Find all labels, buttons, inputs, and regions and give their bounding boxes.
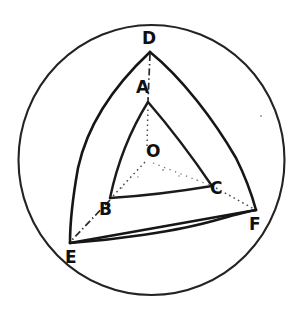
- stray-mark: [196, 179, 198, 181]
- radius-line-O-C: [153, 163, 209, 185]
- inner-edge-A-B: [110, 102, 148, 198]
- vertex-label-F: F: [249, 216, 261, 233]
- radius-line-O-A: [147, 106, 148, 146]
- inner-edge-B-C: [110, 186, 212, 198]
- stray-mark: [162, 169, 164, 171]
- vertex-label-D: D: [142, 30, 156, 47]
- geometry-figure: D E F A B C O: [0, 0, 303, 323]
- outer-edge-E-F: [70, 210, 256, 243]
- vertex-label-A: A: [136, 79, 149, 96]
- stray-mark: [137, 176, 139, 178]
- vertex-label-C: C: [210, 180, 222, 197]
- stray-mark: [260, 115, 262, 117]
- vertex-label-O: O: [146, 143, 160, 160]
- vertex-label-B: B: [99, 201, 112, 218]
- vertex-label-E: E: [65, 249, 77, 266]
- figure-canvas: [0, 0, 303, 323]
- stray-mark: [178, 175, 180, 177]
- stray-mark: [121, 187, 123, 189]
